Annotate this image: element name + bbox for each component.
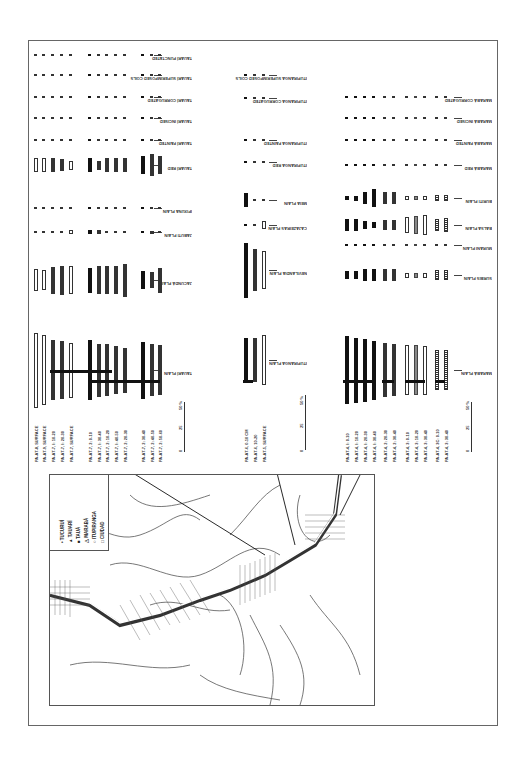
location-map: • TUCURUÍ▲ TAUARÍ■ TAUÁ△ MARABÁ○ ITUPIRA… [49,474,375,706]
frequency-bar [253,199,256,201]
frequency-bar [372,96,375,98]
frequency-bar [383,192,387,204]
frequency-bar [51,96,54,98]
frequency-bar [414,139,417,141]
frequency-bar [383,220,387,230]
frequency-bar [345,164,348,166]
category-label: TAUARÍ PLAIN [164,371,192,376]
frequency-bar [158,345,162,395]
frequency-bar [244,74,247,76]
frequency-bar [392,192,396,204]
frequency-bar [88,96,91,98]
frequency-bar [141,96,144,98]
frequency-bar [372,341,376,400]
frequency-bar [444,244,447,246]
frequency-bar [372,139,375,141]
legend-label: TUCURUÍ [60,520,65,540]
category-label: ITUPIRANGA PAINTED [264,141,307,146]
frequency-bar [42,96,45,98]
frequency-bar [42,270,46,290]
frequency-bar [372,222,376,228]
category-label: MARABÁ RED [465,166,492,171]
frequency-bar [114,117,117,119]
frequency-bar [42,139,45,141]
frequency-bar [150,154,154,176]
frequency-bar [158,268,162,293]
sample-label: PA-AT-8, SURFACE [34,426,39,462]
frequency-bar [444,270,448,280]
frequency-bar [97,161,101,170]
frequency-bar [423,346,427,395]
frequency-bar [414,244,417,246]
frequency-bar [405,96,408,98]
frequency-bar [34,117,37,119]
sample-group-bracket [343,380,373,383]
frequency-bar [392,117,395,119]
sample-label: PA-AT-5, SURFACE [262,426,267,462]
category-label: IPIXUNA PLAIN [163,209,192,214]
frequency-bar [34,96,37,98]
legend-item: ▲ TAUARÍ [68,521,73,543]
frequency-bar [405,273,409,278]
category-label: ITUPIRANGA SUPERIMPOSED COILS [236,76,307,81]
frequency-bar [60,231,63,233]
sample-label: PA-AT-7, I: 40-50 [114,431,119,462]
category-label: CAJAZEIRAS PLAIN [268,226,307,231]
legend-symbol-icon: △ [84,539,89,543]
frequency-bar [88,268,92,293]
frequency-bar [345,139,348,141]
frequency-bar [253,224,256,226]
frequency-bar [435,117,438,119]
frequency-bar [150,96,153,98]
frequency-bar [363,192,367,204]
frequency-bar [42,207,45,209]
frequency-bar [105,207,108,209]
frequency-bar [363,139,366,141]
frequency-bar [345,117,348,119]
category-label: TAUARÍ RED [168,166,192,171]
frequency-bar [345,96,348,98]
category-label: TAUARÍ SUPERIMPOSED COILS [131,76,193,81]
frequency-bar [383,139,386,141]
frequency-bar [253,249,257,291]
frequency-bar [97,139,100,141]
frequency-bar [42,117,45,119]
category-label: SURBIS PLAIN [464,276,492,281]
legend-symbol-icon: □ [100,540,105,543]
frequency-bar [97,207,100,209]
sample-label: PA-AT-4, 3: 0-10 [405,432,410,462]
sample-label: PA-AT-4, 2: 30-40 [392,430,397,462]
frequency-bar [345,244,348,246]
sample-label: PA-AT-4, 3: 30-40 [444,430,449,462]
frequency-bar [60,139,63,141]
sample-label: PA-AT-7, SURFACE [69,426,74,462]
legend-label: TAUÁ [76,527,81,539]
frequency-bar [141,117,144,119]
frequency-bar [123,231,126,233]
frequency-bar [69,161,73,170]
frequency-bar [414,96,417,98]
frequency-bar [423,244,426,246]
frequency-bar [383,96,386,98]
frequency-bar [372,269,376,281]
category-tick [454,225,462,226]
frequency-bar [34,139,37,141]
frequency-bar [114,266,118,294]
frequency-bar [105,139,108,141]
sample-label: PA-AT-4, 3: 30-40 [423,430,428,462]
frequency-bar [392,269,396,281]
frequency-bar [262,251,266,289]
frequency-bar [97,230,101,234]
sample-label: PA-AT-4, 3C: 0-10 [435,429,440,462]
frequency-bar [345,336,349,404]
frequency-bar [105,54,108,56]
frequency-bar [423,196,427,200]
frequency-bar [244,97,247,99]
category-label: MARABÁ PLAIN [461,371,492,376]
category-label: TAUARÍ PUNCTATED [152,56,192,61]
frequency-bar [354,338,358,403]
frequency-bar [51,158,55,172]
frequency-bar [123,117,126,119]
frequency-bar [435,244,438,246]
frequency-bar [253,97,256,99]
